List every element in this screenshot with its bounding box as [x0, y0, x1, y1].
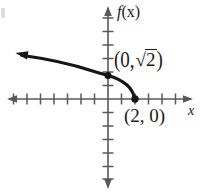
y-axis-label-arg: (x) — [121, 3, 140, 20]
label-x-intercept: (2, 0) — [124, 106, 165, 125]
radicand: 2 — [145, 49, 157, 69]
x-axis-arrow-left — [7, 95, 17, 103]
point-marker-y-intercept — [105, 72, 112, 79]
graph-figure: f(x) (0,√2) (2, 0) x — [0, 0, 200, 195]
x-axis-label: x — [188, 104, 194, 118]
label-y-intercept: (0,√2) — [114, 49, 163, 69]
y-axis-arrow-down — [104, 179, 112, 189]
coordinate-plane — [0, 0, 200, 195]
curve-arrowhead — [16, 51, 29, 59]
point-marker-x-intercept — [131, 95, 138, 102]
label-y-intercept-open: (0, — [114, 48, 135, 70]
y-axis-label: f(x) — [117, 4, 140, 20]
label-y-intercept-close: ) — [157, 48, 163, 70]
radical-sign-icon: √2 — [135, 49, 157, 69]
x-axis-arrow-right — [183, 95, 193, 103]
y-axis-arrow-up — [104, 6, 112, 16]
